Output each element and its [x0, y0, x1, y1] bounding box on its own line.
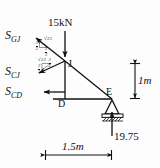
joint-label-d: D: [58, 99, 65, 109]
member-force-subscript-gj: GJ: [11, 35, 20, 44]
dimension-label-horizontal: 1.5m: [62, 141, 84, 152]
ratio-horizontal-lower-den: 3: [38, 69, 40, 75]
member-force-label-cj: SCJ: [5, 65, 20, 80]
member-force-subscript-cd: CD: [11, 91, 22, 100]
ratio-vertical-lower: 3 2: [49, 58, 51, 68]
joint-label-j: J: [68, 59, 72, 69]
force-arrow-scj: [39, 61, 65, 73]
ratio-vertical-upper-num: 3: [36, 41, 38, 46]
ratio-vertical-upper-den: 2: [36, 46, 38, 52]
ratio-horizontal-lower-num: 2: [38, 64, 40, 69]
ratio-hyp-lower: √13: [38, 57, 46, 62]
ratio-vertical-lower-num: 3: [49, 58, 51, 63]
member-force-label-cd: SCD: [5, 85, 22, 100]
member-je: [65, 61, 112, 99]
member-force-subscript-cj: CJ: [11, 71, 20, 80]
dimension-label-vertical: 1m: [138, 75, 151, 86]
pin-support-triangle: [105, 100, 119, 114]
ratio-horizontal-upper-num: 2: [45, 47, 47, 52]
ratio-vertical-upper: 3 2: [36, 41, 38, 51]
truss-free-body-diagram: 15kN SGJ SCJ SCD J D E √13 3 2 2 3 √13 3…: [0, 0, 160, 168]
member-force-label-gj: SGJ: [5, 29, 20, 44]
joint-label-e: E: [106, 87, 112, 97]
ratio-horizontal-upper: 2 3: [45, 47, 47, 57]
ratio-hyp-upper: √13: [44, 36, 52, 41]
load-label-15kn: 15kN: [48, 17, 72, 28]
ratio-horizontal-lower: 2 3: [38, 64, 40, 74]
ratio-vertical-lower-den: 2: [49, 63, 51, 69]
reaction-label-19-75: 19.75: [114, 131, 139, 142]
